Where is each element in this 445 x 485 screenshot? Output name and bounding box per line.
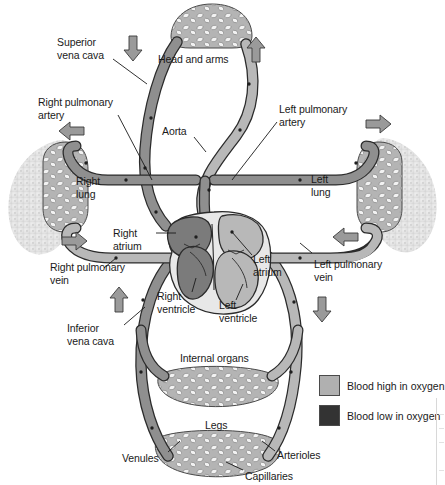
page-edge-artifact [436, 398, 445, 485]
circulatory-system-figure: Superior vena cava Head and arms Right p… [0, 0, 445, 485]
label-left-ventricle: Left ventricle [219, 299, 257, 324]
arrow-svc-down [124, 36, 142, 61]
internal-organs-capillary-bed [158, 366, 278, 406]
label-left-pulmonary-vein: Left pulmonary vein [314, 258, 382, 283]
label-capillaries: Capillaries [245, 470, 293, 483]
label-internal-organs: Internal organs [180, 352, 249, 365]
legend-swatch-high-oxygen [319, 375, 340, 396]
legend-label-low-oxygen: Blood low in oxygen [347, 410, 440, 422]
label-aorta: Aorta [162, 125, 187, 138]
arrow-right-pa-left [59, 122, 84, 140]
label-head-and-arms: Head and arms [158, 53, 229, 66]
label-right-pulmonary-artery: Right pulmonary artery [38, 96, 113, 121]
label-superior-vena-cava: Superior vena cava [57, 36, 104, 61]
label-left-atrium: Left atrium [253, 253, 282, 278]
arrow-aorta-down [313, 297, 331, 322]
legend-label-high-oxygen: Blood high in oxygen [347, 380, 445, 392]
label-arterioles: Arterioles [277, 449, 320, 462]
legend-item-blood-high-oxygen: Blood high in oxygen [319, 375, 441, 396]
label-right-atrium: Right atrium [113, 227, 142, 252]
arrow-left-pv-left [333, 228, 358, 246]
left-lung-capillary-bed [357, 142, 402, 232]
head-and-arms-capillary-bed [171, 4, 252, 48]
legend-item-blood-low-oxygen: Blood low in oxygen [319, 405, 441, 426]
left-pulmonary-artery-vessel [214, 146, 374, 180]
legend: Blood high in oxygen Blood low in oxygen [319, 375, 441, 435]
arrow-left-pa-right [366, 115, 391, 133]
label-left-pulmonary-artery: Left pulmonary artery [279, 103, 347, 128]
label-left-lung: Left lung [311, 173, 330, 198]
legend-swatch-low-oxygen [319, 405, 340, 426]
label-right-ventricle: Right ventricle [157, 290, 195, 315]
label-right-pulmonary-vein: Right pulmonary vein [50, 261, 125, 286]
arrow-ivc-up [110, 287, 128, 312]
label-legs: Legs [205, 419, 227, 432]
label-inferior-vena-cava: Inferior vena cava [67, 322, 114, 347]
label-right-lung: Right lung [76, 175, 100, 200]
label-venules: Venules [122, 452, 159, 465]
